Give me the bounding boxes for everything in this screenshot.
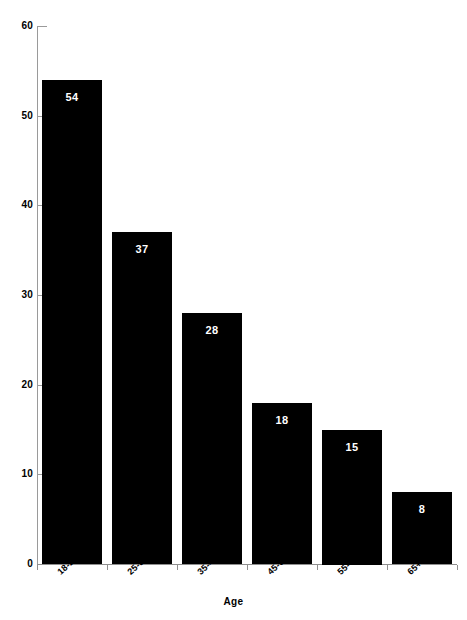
y-axis-tick-label: 10: [3, 469, 33, 479]
bar-value-label: 54: [42, 92, 102, 103]
y-axis-tick-label: 50: [3, 111, 33, 121]
bar: [182, 313, 242, 564]
bar: [42, 80, 102, 564]
y-axis-tick: [38, 26, 47, 27]
y-axis-tick-label-wrap: 0: [0, 559, 33, 569]
y-axis-tick-label-wrap: 20: [0, 380, 33, 390]
y-axis-tick-label: 30: [3, 290, 33, 300]
bar: [112, 232, 172, 564]
y-axis-tick-label-wrap: 30: [0, 290, 33, 300]
y-axis-tick-label-wrap: 60: [0, 21, 33, 31]
x-axis-title: Age: [0, 596, 467, 607]
bar: [252, 403, 312, 564]
x-axis-tick: [457, 565, 458, 570]
y-axis-tick-label: 60: [3, 21, 33, 31]
bar-value-label: 28: [182, 325, 242, 336]
x-axis-tick: [387, 565, 388, 570]
x-axis-tick: [317, 565, 318, 570]
bar-value-label: 37: [112, 244, 172, 255]
bar-value-label: 18: [252, 415, 312, 426]
y-axis-tick-label: 20: [3, 380, 33, 390]
x-axis-tick: [107, 565, 108, 570]
y-axis-tick-label: 40: [3, 200, 33, 210]
x-axis-tick: [37, 565, 38, 570]
y-axis-tick-label-wrap: 40: [0, 200, 33, 210]
bar-value-label: 8: [392, 504, 452, 515]
bar-chart: 0102030405060 54372818158 18-2425-3435-4…: [0, 0, 467, 620]
y-axis-tick-label-wrap: 50: [0, 111, 33, 121]
bar-value-label: 15: [322, 442, 382, 453]
x-axis-tick: [247, 565, 248, 570]
x-axis-tick: [177, 565, 178, 570]
y-axis-tick-label-wrap: 10: [0, 469, 33, 479]
y-axis-tick-label: 0: [3, 559, 33, 569]
